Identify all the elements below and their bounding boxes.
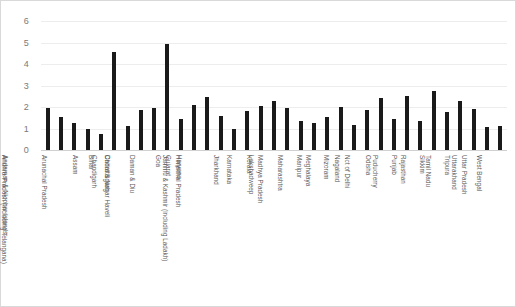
bar (365, 110, 369, 150)
x-axis-label: Andhra Pradesh (including Telangana) (0, 155, 6, 264)
y-tick-label-5: 5 (24, 38, 29, 47)
x-label-slot: Daman & Diu (148, 153, 161, 303)
bar (272, 101, 276, 150)
bar (312, 123, 316, 150)
bar-slot (54, 21, 67, 150)
bar-slot (321, 21, 334, 150)
bar (498, 126, 502, 150)
bar-chart: 0123456 Andaman & Nicobar IslandsAndhra … (0, 0, 516, 307)
bar (205, 97, 209, 150)
bar-slot (281, 21, 294, 150)
bar-slot (41, 21, 54, 150)
bar-slot (347, 21, 360, 150)
x-axis-label: West Bengal (476, 155, 482, 191)
x-axis-label: Uttarakhand (450, 155, 456, 190)
bar (405, 96, 409, 150)
bar-slot (241, 21, 254, 150)
bar-slot (134, 21, 147, 150)
bar (99, 134, 103, 150)
x-axis-label: Jammu & Kashmir (including Ladakh) (161, 155, 167, 261)
bar-slot (361, 21, 374, 150)
y-tick-label-3: 3 (24, 81, 29, 90)
bar-slot (174, 21, 187, 150)
y-tick-label-6: 6 (24, 17, 29, 26)
bar (219, 116, 223, 150)
x-axis-label: Nct of Delhi (344, 155, 350, 188)
bar (72, 123, 76, 150)
bar (259, 106, 263, 151)
y-tick-label-0: 0 (24, 146, 29, 155)
x-axis-label: Maharashtra (276, 155, 282, 191)
x-label-slot: Arunachal Pradesh (68, 153, 81, 303)
bar-slot (121, 21, 134, 150)
bar (458, 101, 462, 150)
x-axis-label: Assam (72, 155, 78, 175)
bar-slot (334, 21, 347, 150)
bar-slot (187, 21, 200, 150)
x-axis-label: Rajasthan (400, 155, 406, 184)
bar-slot (387, 21, 400, 150)
bar-slot (161, 21, 174, 150)
y-tick-label-4: 4 (24, 60, 29, 69)
bar (325, 117, 329, 150)
bar (418, 121, 422, 150)
x-axis-label: Daman & Diu (129, 155, 135, 193)
x-axis-label: Madhya Pradesh (257, 155, 263, 203)
x-axis-label: Jharkhand (213, 155, 219, 185)
bar-slot (480, 21, 493, 150)
x-axis-label: Uttar Pradesh (461, 155, 467, 195)
bar (299, 121, 303, 150)
bar-slot (467, 21, 480, 150)
bar-slot (440, 21, 453, 150)
x-axis-label: Arunachal Pradesh (41, 155, 47, 209)
bar (339, 107, 343, 150)
bar (86, 129, 90, 150)
bar (165, 44, 169, 150)
bar (445, 112, 449, 150)
y-axis: 0123456 (1, 21, 37, 150)
bar-slot (201, 21, 214, 150)
bar-slot (227, 21, 240, 150)
bar (232, 129, 236, 151)
bar-slot (307, 21, 320, 150)
bar-slot (294, 21, 307, 150)
bar (179, 119, 183, 150)
x-axis-label: Nagaland (334, 155, 340, 182)
bar (285, 108, 289, 150)
bar (352, 125, 356, 150)
bar (472, 109, 476, 150)
bar (126, 126, 130, 150)
bar-slot (427, 21, 440, 150)
x-axis-label: Lakshadweep (248, 155, 254, 194)
bar (192, 105, 196, 150)
bar (59, 117, 63, 150)
y-tick-label-2: 2 (24, 103, 29, 112)
x-axis-label: Himachal Pradesh (175, 155, 181, 207)
gridline-0 (41, 150, 507, 151)
bars-group (41, 21, 507, 150)
x-axis-label: Manipur (296, 155, 302, 178)
x-axis-label: Sikkim (418, 155, 424, 174)
bar (245, 111, 249, 150)
plot-area (41, 21, 507, 150)
x-label-slot: Dadra & Nagar Haveli (134, 153, 147, 303)
x-axis-label: Meghalaya (305, 155, 311, 186)
x-axis-label: Karnataka (226, 155, 232, 184)
bar-slot (214, 21, 227, 150)
bar (392, 119, 396, 150)
y-tick-label-1: 1 (24, 124, 29, 133)
x-axis-label: Tamil Nadu (425, 155, 431, 187)
bar-slot (494, 21, 507, 150)
bar-slot (254, 21, 267, 150)
bar-slot (454, 21, 467, 150)
bar-slot (267, 21, 280, 150)
bar-slot (374, 21, 387, 150)
bar-slot (108, 21, 121, 150)
x-label-slot: Andhra Pradesh (including Telangana) (54, 153, 67, 303)
x-axis-label: Goa (155, 155, 161, 167)
bar-slot (400, 21, 413, 150)
bar-slot (94, 21, 107, 150)
bar (139, 110, 143, 150)
bar (152, 108, 156, 150)
bar (379, 98, 383, 150)
